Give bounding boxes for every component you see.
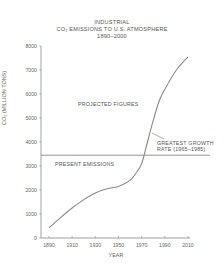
y-tick-label: 4000 <box>25 139 37 145</box>
y-tick-label: 7000 <box>25 67 37 73</box>
y-tick-label: 8000 <box>25 43 37 49</box>
y-tick-label: 0 <box>34 235 37 241</box>
annotation-projected-figures: PROJECTED FIGURES <box>78 101 139 107</box>
y-tick-label: 3000 <box>25 163 37 169</box>
growth-leader-line <box>152 133 164 139</box>
x-axis-label: YEAR <box>109 252 124 258</box>
y-tick-label: 2000 <box>25 187 37 193</box>
x-tick-label: 1930 <box>90 242 102 248</box>
y-tick-label: 5000 <box>25 115 37 121</box>
x-tick-label: 1890 <box>43 242 55 248</box>
y-tick-label: 6000 <box>25 91 37 97</box>
line-chart: 0100020003000400050006000700080001890191… <box>0 0 224 271</box>
annotation-growth-line-2: RATE (1965–1985) <box>157 146 205 152</box>
annotation-present-emissions: PRESENT EMISSIONS <box>55 161 114 167</box>
x-tick-label: 1990 <box>159 242 171 248</box>
x-tick-label: 1910 <box>66 242 78 248</box>
x-tick-label: 2010 <box>182 242 194 248</box>
x-tick-label: 1950 <box>113 242 125 248</box>
y-tick-label: 1000 <box>25 211 37 217</box>
x-tick-label: 1970 <box>136 242 148 248</box>
